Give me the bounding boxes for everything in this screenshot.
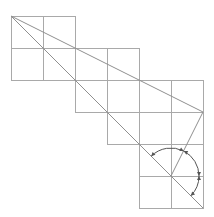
arc-right bbox=[184, 151, 199, 176]
grid-cell bbox=[108, 81, 140, 113]
grid-cell bbox=[12, 49, 44, 81]
arc-upper bbox=[151, 148, 184, 156]
grid-cell bbox=[108, 49, 140, 81]
grid-cell bbox=[172, 81, 204, 113]
grid-diagram bbox=[0, 0, 214, 217]
arrowhead-icon bbox=[197, 172, 201, 176]
grid-cell bbox=[140, 81, 172, 113]
diagram-canvas bbox=[0, 0, 214, 217]
angle-arcs bbox=[151, 147, 201, 195]
grid-cell bbox=[172, 113, 204, 145]
grid-cell bbox=[140, 177, 172, 209]
grid-cell bbox=[76, 49, 108, 81]
grid-cell bbox=[140, 113, 172, 145]
grid-cell bbox=[44, 17, 76, 49]
